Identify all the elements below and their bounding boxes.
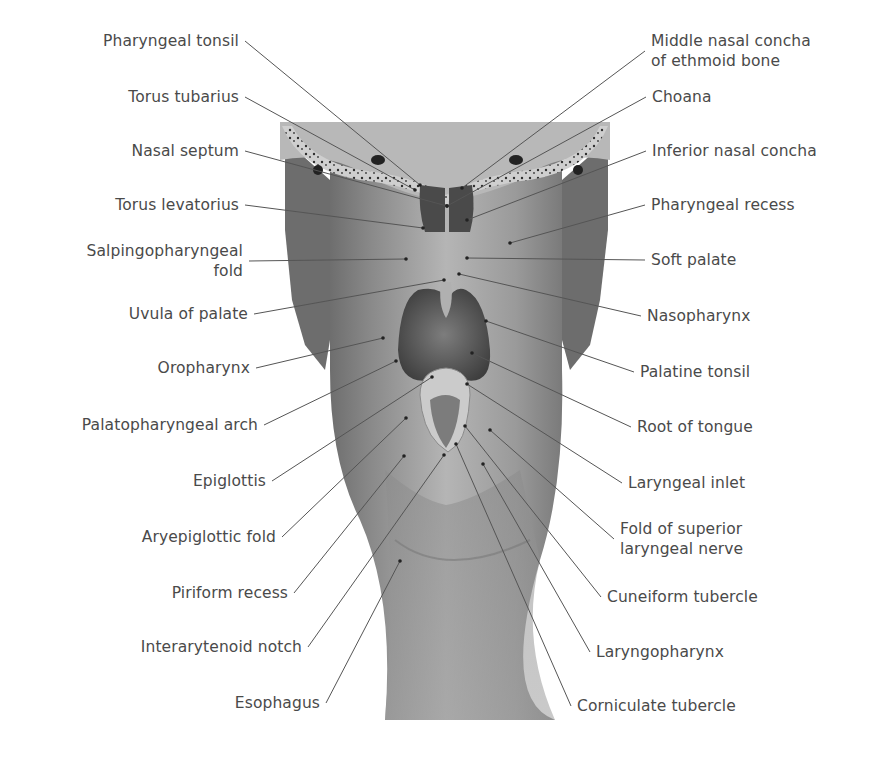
label-nasal-septum: Nasal septum — [131, 141, 239, 161]
label-text: Uvula of palate — [129, 304, 248, 324]
label-torus-tubarius: Torus tubarius — [128, 87, 239, 107]
label-palatine-tonsil: Palatine tonsil — [640, 362, 750, 382]
label-text: Laryngeal inlet — [628, 473, 745, 493]
label-piriform-recess: Piriform recess — [172, 583, 288, 603]
leader-dot — [418, 183, 422, 187]
label-pharyngeal-tonsil: Pharyngeal tonsil — [103, 31, 239, 51]
pharynx-illustration — [0, 0, 883, 760]
leader-dot — [421, 226, 425, 230]
label-cuneiform-tubercle: Cuneiform tubercle — [607, 587, 758, 607]
label-text: Salpingopharyngeal — [87, 241, 243, 261]
leader-dot — [481, 462, 485, 466]
label-text: Inferior nasal concha — [652, 141, 817, 161]
leader-dot — [413, 188, 417, 192]
leader-dot — [460, 186, 464, 190]
label-text: Esophagus — [235, 693, 320, 713]
leader-dot — [465, 382, 469, 386]
label-laryngeal-inlet: Laryngeal inlet — [628, 473, 745, 493]
label-text: Interarytenoid notch — [141, 637, 302, 657]
leader-dot — [463, 424, 467, 428]
leader-dot — [508, 241, 512, 245]
leader-dot — [404, 257, 408, 261]
label-text: of ethmoid bone — [651, 51, 811, 71]
label-text: Cuneiform tubercle — [607, 587, 758, 607]
label-text: Soft palate — [651, 250, 736, 270]
anatomy-figure: Pharyngeal tonsilTorus tubariusNasal sep… — [0, 0, 883, 760]
label-text: laryngeal nerve — [620, 539, 743, 559]
leader-dot — [465, 256, 469, 260]
leader-dot — [470, 351, 474, 355]
label-text: Palatine tonsil — [640, 362, 750, 382]
label-choana: Choana — [652, 87, 712, 107]
leader-dot — [430, 375, 434, 379]
leader-dot — [445, 204, 449, 208]
label-soft-palate: Soft palate — [651, 250, 736, 270]
label-oropharynx: Oropharynx — [158, 358, 250, 378]
label-text: Piriform recess — [172, 583, 288, 603]
label-text: Epiglottis — [193, 471, 266, 491]
leader-dot — [404, 416, 408, 420]
leader-dot — [402, 454, 406, 458]
label-corniculate-tubercle: Corniculate tubercle — [577, 696, 736, 716]
choana-left — [420, 185, 445, 232]
label-root-of-tongue: Root of tongue — [637, 417, 753, 437]
label-text: Nasal septum — [131, 141, 239, 161]
label-inferior-nasal-concha: Inferior nasal concha — [652, 141, 817, 161]
choana-right — [449, 185, 474, 232]
label-text: Pharyngeal tonsil — [103, 31, 239, 51]
label-text: Choana — [652, 87, 712, 107]
leader-dot — [484, 319, 488, 323]
label-epiglottis: Epiglottis — [193, 471, 266, 491]
label-text: Torus levatorius — [115, 195, 239, 215]
label-text: Nasopharynx — [647, 306, 750, 326]
label-text: Laryngopharynx — [596, 642, 724, 662]
leader-dot — [465, 218, 469, 222]
label-text: Root of tongue — [637, 417, 753, 437]
leader-dot — [457, 272, 461, 276]
label-nasopharynx: Nasopharynx — [647, 306, 750, 326]
label-aryepiglottic-fold: Aryepiglottic fold — [142, 527, 276, 547]
left-muscle — [285, 140, 330, 370]
label-text: Pharyngeal recess — [651, 195, 795, 215]
label-pharyngeal-recess: Pharyngeal recess — [651, 195, 795, 215]
label-salpingopharyngeal-fold: Salpingopharyngealfold — [87, 241, 243, 281]
label-text: Fold of superior — [620, 519, 743, 539]
label-esophagus: Esophagus — [235, 693, 320, 713]
label-uvula-of-palate: Uvula of palate — [129, 304, 248, 324]
leader-dot — [454, 442, 458, 446]
label-text: Aryepiglottic fold — [142, 527, 276, 547]
label-torus-levatorius: Torus levatorius — [115, 195, 239, 215]
label-text: Middle nasal concha — [651, 31, 811, 51]
leader-dot — [398, 559, 402, 563]
label-text: fold — [87, 261, 243, 281]
leader-dot — [442, 453, 446, 457]
label-laryngopharynx: Laryngopharynx — [596, 642, 724, 662]
leader-dot — [488, 428, 492, 432]
label-text: Torus tubarius — [128, 87, 239, 107]
label-text: Palatopharyngeal arch — [82, 415, 258, 435]
label-text: Oropharynx — [158, 358, 250, 378]
leader-dot — [381, 336, 385, 340]
label-middle-nasal-concha-of-ethmoid-bone: Middle nasal conchaof ethmoid bone — [651, 31, 811, 71]
label-text: Corniculate tubercle — [577, 696, 736, 716]
leader-dot — [394, 359, 398, 363]
label-interarytenoid-notch: Interarytenoid notch — [141, 637, 302, 657]
label-palatopharyngeal-arch: Palatopharyngeal arch — [82, 415, 258, 435]
label-fold-of-superior-laryngeal-nerve: Fold of superiorlaryngeal nerve — [620, 519, 743, 559]
leader-dot — [442, 278, 446, 282]
